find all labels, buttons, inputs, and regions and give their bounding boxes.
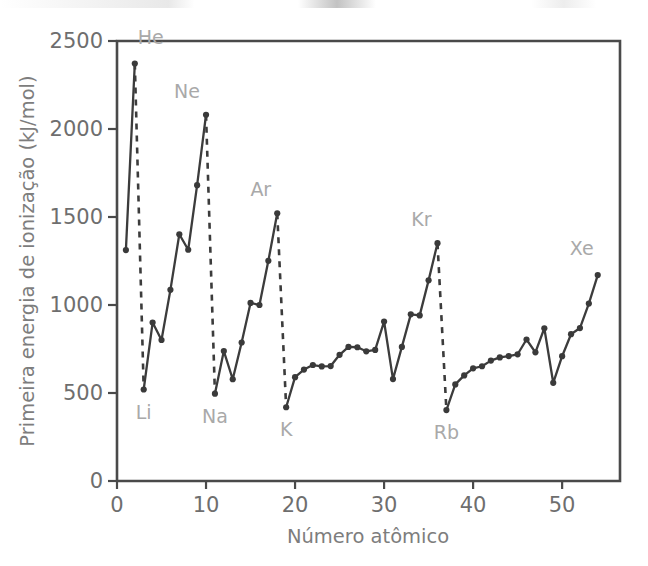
data-point xyxy=(515,351,521,357)
data-point xyxy=(434,240,440,246)
data-point xyxy=(532,349,538,355)
element-label-he: He xyxy=(138,26,164,48)
element-label-li: Li xyxy=(136,401,152,423)
data-point xyxy=(586,300,592,306)
period-break-line xyxy=(438,243,447,410)
y-tick-label: 2000 xyxy=(50,117,103,141)
data-line-segment xyxy=(126,64,135,251)
element-label-xe: Xe xyxy=(570,237,594,259)
data-point xyxy=(176,231,182,237)
data-point xyxy=(550,380,556,386)
y-tick-label: 500 xyxy=(63,381,103,405)
data-point xyxy=(123,247,129,253)
data-point xyxy=(506,353,512,359)
data-point xyxy=(310,362,316,368)
x-tick-label: 30 xyxy=(371,493,398,517)
data-line-segment xyxy=(446,275,597,410)
data-point xyxy=(470,365,476,371)
data-line-segment xyxy=(144,115,206,390)
y-tick-label: 2500 xyxy=(50,29,103,53)
period-break-line xyxy=(277,213,286,407)
data-point xyxy=(417,312,423,318)
element-label-ar: Ar xyxy=(250,178,271,200)
data-point xyxy=(595,272,601,278)
data-point xyxy=(452,381,458,387)
data-point xyxy=(488,358,494,364)
element-label-k: K xyxy=(280,418,293,440)
data-point xyxy=(256,302,262,308)
data-point xyxy=(274,210,280,216)
x-tick-label: 40 xyxy=(460,493,487,517)
data-point xyxy=(523,336,529,342)
data-point xyxy=(363,348,369,354)
data-line-segment xyxy=(286,243,437,407)
x-axis-title: Número atômico xyxy=(287,525,449,548)
data-point xyxy=(541,325,547,331)
data-point xyxy=(425,277,431,283)
period-break-line xyxy=(135,64,144,390)
data-point xyxy=(319,363,325,369)
data-point xyxy=(212,391,218,397)
chart-svg: 05001000150020002500 01020304050 HeNeArK… xyxy=(0,0,648,566)
data-point xyxy=(150,320,156,326)
data-point xyxy=(372,347,378,353)
data-point xyxy=(461,372,467,378)
data-point xyxy=(221,348,227,354)
data-line-segment xyxy=(215,213,277,393)
data-point xyxy=(185,247,191,253)
data-point xyxy=(158,337,164,343)
data-point xyxy=(479,363,485,369)
data-point xyxy=(239,339,245,345)
x-tick-label: 10 xyxy=(193,493,220,517)
data-point xyxy=(568,331,574,337)
x-tick-label: 0 xyxy=(110,493,123,517)
y-axis-title: Primeira energia de ionização (kJ/mol) xyxy=(16,75,39,446)
x-tick-label: 50 xyxy=(549,493,576,517)
data-point xyxy=(577,325,583,331)
data-point xyxy=(141,386,147,392)
plot-frame xyxy=(117,41,620,481)
y-tick-label: 0 xyxy=(90,469,103,493)
y-tick-label: 1000 xyxy=(50,293,103,317)
data-point xyxy=(390,376,396,382)
data-point xyxy=(230,376,236,382)
data-point xyxy=(283,404,289,410)
data-point xyxy=(497,354,503,360)
data-point xyxy=(381,318,387,324)
period-break-line xyxy=(206,115,215,394)
data-point xyxy=(167,287,173,293)
data-point xyxy=(292,374,298,380)
element-label-na: Na xyxy=(202,405,228,427)
chart-page: 05001000150020002500 01020304050 HeNeArK… xyxy=(0,0,648,566)
y-axis-ticks: 05001000150020002500 xyxy=(50,29,117,493)
x-tick-label: 20 xyxy=(282,493,309,517)
data-point xyxy=(301,366,307,372)
data-point xyxy=(132,60,138,66)
element-label-rb: Rb xyxy=(434,421,459,443)
data-point xyxy=(336,352,342,358)
ionization-energy-chart: 05001000150020002500 01020304050 HeNeArK… xyxy=(0,0,648,566)
element-label-ne: Ne xyxy=(174,80,200,102)
data-point xyxy=(345,344,351,350)
data-point xyxy=(408,311,414,317)
x-axis-ticks: 01020304050 xyxy=(110,481,575,517)
data-point xyxy=(354,344,360,350)
data-point-markers xyxy=(123,60,601,413)
data-point xyxy=(203,112,209,118)
data-line-solid xyxy=(126,64,598,411)
element-label-kr: Kr xyxy=(411,208,431,230)
data-point xyxy=(194,182,200,188)
data-point xyxy=(265,258,271,264)
data-point xyxy=(559,353,565,359)
data-point xyxy=(399,344,405,350)
data-point xyxy=(328,363,334,369)
data-point xyxy=(247,300,253,306)
element-annotations: HeNeArKrXeLiNaKRb xyxy=(136,26,594,444)
data-point xyxy=(443,407,449,413)
y-tick-label: 1500 xyxy=(50,205,103,229)
